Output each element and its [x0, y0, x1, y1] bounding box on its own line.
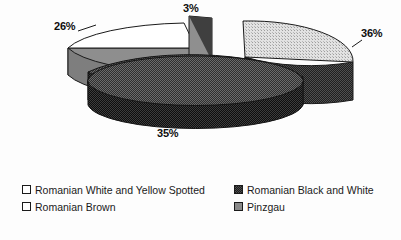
slice-label-36: 36% [361, 27, 382, 39]
slice-label-3: 3% [183, 2, 199, 14]
chart-legend: Romanian White and Yellow Spotted Romani… [22, 181, 380, 215]
pie-plot-area: 26% 3% 36% 35% [0, 0, 401, 170]
legend-swatch-icon [22, 202, 31, 211]
leader-line-36 [352, 40, 362, 47]
pie-chart: 26% 3% 36% 35% Romanian White and Yellow… [0, 0, 401, 240]
slice-label-26: 26% [54, 20, 75, 32]
legend-item-romanian-black-and-white[interactable]: Romanian Black and White [234, 184, 380, 196]
legend-swatch-icon [234, 202, 243, 211]
legend-item-label: Romanian Black and White [247, 184, 374, 196]
legend-item-label: Romanian Brown [35, 201, 116, 213]
legend-item-romanian-white-and-yellow-spotted[interactable]: Romanian White and Yellow Spotted [22, 184, 234, 196]
legend-swatch-icon [22, 185, 31, 194]
legend-item-label: Pinzgau [247, 201, 285, 213]
legend-swatch-icon [234, 185, 243, 194]
pie-slice-romanian-brown[interactable] [88, 55, 304, 129]
legend-item-label: Romanian White and Yellow Spotted [35, 184, 205, 196]
legend-item-romanian-brown[interactable]: Romanian Brown [22, 201, 234, 213]
slice-top-36 [243, 21, 353, 62]
legend-item-pinzgau[interactable]: Pinzgau [234, 201, 380, 213]
leader-line-26 [78, 25, 96, 31]
slice-label-35: 35% [157, 127, 178, 139]
slice-top-26 [68, 23, 196, 48]
